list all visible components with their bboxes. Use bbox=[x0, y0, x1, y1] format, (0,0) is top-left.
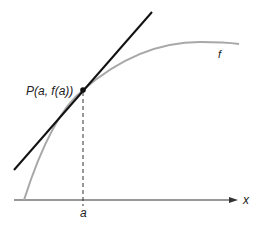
x-axis-arrow-icon bbox=[229, 197, 238, 203]
curve-label: f bbox=[218, 48, 222, 60]
tick-label-a: a bbox=[80, 206, 87, 220]
x-axis-label: x bbox=[242, 193, 250, 207]
point-p bbox=[80, 87, 86, 93]
tangent-diagram: P(a, f(a)) f x a bbox=[0, 0, 260, 225]
point-label: P(a, f(a)) bbox=[26, 84, 73, 98]
